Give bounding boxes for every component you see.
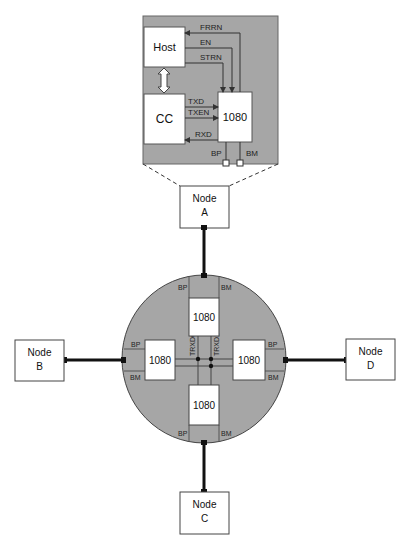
zoom-line-right xyxy=(229,164,278,186)
cc-label: CC xyxy=(156,112,174,126)
host-label: Host xyxy=(153,41,176,53)
detail-panel: Host CC 1080 FRRN EN STRN TXD TXEN xyxy=(143,16,278,166)
node-b-label-2: B xyxy=(36,361,43,372)
node-c[interactable]: Node C xyxy=(180,492,229,534)
bottom-bp-label: BP xyxy=(178,430,188,437)
hub-chip-bottom-label: 1080 xyxy=(193,400,216,411)
bp-label: BP xyxy=(211,149,222,158)
node-c-label-1: Node xyxy=(193,499,217,510)
zoom-line-left xyxy=(143,164,180,186)
cable-a xyxy=(201,225,207,278)
top-bm-label: BM xyxy=(221,284,232,291)
en-label: EN xyxy=(200,38,211,47)
rxd-label: RXD xyxy=(195,130,212,139)
cable-c xyxy=(201,440,207,494)
hub-chip-left-label: 1080 xyxy=(149,355,172,366)
cable-b xyxy=(62,357,126,363)
hub-chip-right-label: 1080 xyxy=(238,355,261,366)
chip-1080-detail: 1080 xyxy=(218,92,252,142)
hub-chip-top-label: 1080 xyxy=(193,312,216,323)
left-bm-label: BM xyxy=(130,374,141,381)
node-d[interactable]: Node D xyxy=(346,339,395,380)
bm-pin xyxy=(237,160,243,166)
bottom-bm-label: BM xyxy=(221,430,232,437)
node-b-label-1: Node xyxy=(28,347,52,358)
strn-label: STRN xyxy=(200,53,222,62)
right-bp-label: BP xyxy=(268,341,278,348)
node-a-label-1: Node xyxy=(193,193,217,204)
chip-label: 1080 xyxy=(223,111,247,123)
top-bp-label: BP xyxy=(178,284,188,291)
node-b[interactable]: Node B xyxy=(15,340,64,381)
node-d-label-1: Node xyxy=(359,346,383,357)
txd-label: TXD xyxy=(188,97,204,106)
frrn-label: FRRN xyxy=(200,23,222,32)
node-a-label-2: A xyxy=(201,207,208,218)
hub: TRXD0 TRXD1 1080 BP BM 1080 BP BM 1080 B… xyxy=(122,275,286,443)
right-bm-label: BM xyxy=(268,374,279,381)
network-diagram: Host CC 1080 FRRN EN STRN TXD TXEN xyxy=(0,0,410,552)
node-a[interactable]: Node A xyxy=(180,186,229,228)
txen-label: TXEN xyxy=(188,108,210,117)
host-box: Host xyxy=(144,27,185,67)
bp-pin xyxy=(223,160,229,166)
cable-d xyxy=(283,357,349,363)
cc-box: CC xyxy=(144,94,185,144)
node-d-label-2: D xyxy=(367,360,374,371)
node-c-label-2: C xyxy=(201,513,208,524)
bm-label: BM xyxy=(246,149,258,158)
left-bp-label: BP xyxy=(131,341,141,348)
